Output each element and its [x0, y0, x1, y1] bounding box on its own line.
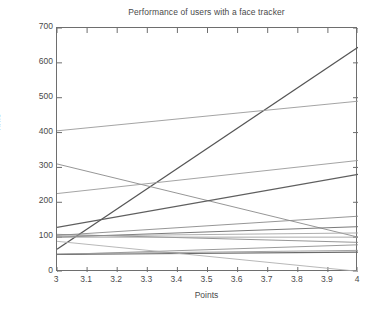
y-tick-label: 0: [25, 266, 53, 275]
x-axis-label: Points: [56, 290, 357, 300]
x-tick-label: 3.6: [222, 275, 252, 284]
series-line: [57, 234, 358, 242]
x-tick-label: 4: [342, 275, 372, 284]
y-tick-label: 300: [25, 161, 53, 170]
figure-canvas: Performance of users with a face tracker…: [0, 0, 376, 312]
x-tick-label: 3.8: [282, 275, 312, 284]
y-tick-label: 600: [25, 57, 53, 66]
series-line: [57, 241, 358, 271]
y-tick-label: 400: [25, 127, 53, 136]
x-tick-label: 3.9: [312, 275, 342, 284]
y-tick-label: 100: [25, 231, 53, 240]
x-tick-label: 3.4: [161, 275, 191, 284]
y-axis-label: Time: [0, 113, 2, 132]
x-tick-label: 3.3: [131, 275, 161, 284]
line-plot: [57, 28, 358, 272]
chart-title: Performance of users with a face tracker: [56, 7, 357, 17]
plot-area: [56, 27, 357, 271]
x-tick-label: 3: [41, 275, 71, 284]
y-tick-label: 200: [25, 196, 53, 205]
series-line: [57, 160, 358, 193]
y-tick-label: 500: [25, 92, 53, 101]
x-tick-label: 3.2: [101, 275, 131, 284]
x-tick-label: 3.5: [192, 275, 222, 284]
x-tick-label: 3.1: [71, 275, 101, 284]
x-tick-label: 3.7: [252, 275, 282, 284]
series-line: [57, 101, 358, 131]
y-tick-label: 700: [25, 22, 53, 31]
